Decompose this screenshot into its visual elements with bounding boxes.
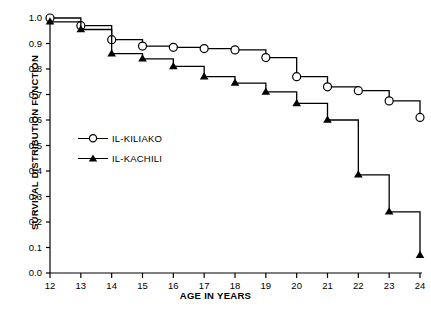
data-point-il-kachili-21 — [323, 116, 332, 123]
data-point-il-kiliako-19 — [262, 54, 270, 62]
data-point-il-kachili-19 — [262, 87, 271, 94]
legend-label-il-kachili: IL-KACHILI — [112, 153, 162, 164]
data-point-il-kachili-24 — [416, 251, 425, 258]
data-point-il-kachili-14 — [107, 49, 116, 56]
data-point-il-kiliako-17 — [200, 45, 208, 53]
data-point-il-kiliako-20 — [293, 73, 301, 81]
data-point-il-kiliako-15 — [139, 42, 147, 50]
legend: IL-KILIAKO IL-KACHILI — [78, 128, 162, 168]
legend-item-il-kachili: IL-KACHILI — [78, 148, 162, 168]
legend-item-il-kiliako: IL-KILIAKO — [78, 128, 162, 148]
data-point-il-kiliako-18 — [231, 46, 239, 54]
data-point-il-kiliako-21 — [324, 83, 332, 91]
filled-triangle-icon — [78, 152, 108, 164]
open-circle-icon — [78, 132, 108, 144]
data-point-il-kachili-23 — [385, 207, 394, 214]
data-point-il-kachili-20 — [292, 99, 301, 106]
survival-curve-figure: SURVIVAL DISTRIBUTION FUNCTION AGE IN YE… — [0, 0, 431, 310]
data-point-il-kiliako-22 — [354, 87, 362, 95]
data-point-il-kachili-15 — [138, 54, 147, 61]
legend-label-il-kiliako: IL-KILIAKO — [112, 133, 162, 144]
data-point-il-kachili-18 — [231, 79, 240, 86]
data-point-il-kiliako-16 — [169, 43, 177, 51]
data-point-il-kachili-16 — [169, 62, 178, 69]
data-point-il-kachili-17 — [200, 72, 209, 79]
data-point-il-kachili-22 — [354, 170, 363, 177]
series-line-il-kiliako — [50, 18, 420, 117]
data-point-il-kiliako-23 — [385, 97, 393, 105]
plot-area — [0, 0, 431, 310]
data-point-il-kiliako-24 — [416, 113, 424, 121]
